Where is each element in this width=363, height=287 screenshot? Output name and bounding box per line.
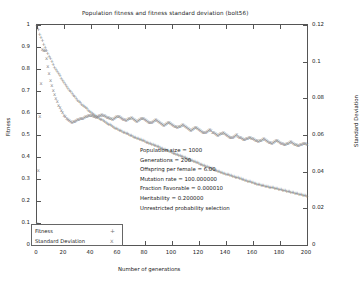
y-tick-left bbox=[37, 113, 41, 114]
svg-text:x: x bbox=[46, 63, 49, 69]
x-tick-top bbox=[37, 25, 38, 29]
y-tick-label-left: 0.1 bbox=[4, 219, 30, 225]
y-tick-right bbox=[303, 135, 307, 136]
x-tick bbox=[307, 241, 308, 245]
y-tick-label-right: 0.04 bbox=[312, 168, 338, 174]
x-tick bbox=[280, 241, 281, 245]
y-tick-label-left: 0.5 bbox=[4, 131, 30, 137]
x-tick bbox=[226, 241, 227, 245]
annotation-line-1: Population size = 1000 bbox=[140, 146, 230, 156]
x-axis-label: Number of generations bbox=[118, 266, 180, 272]
y-tick-label-left: 0.9 bbox=[4, 43, 30, 49]
x-tick-label: 180 bbox=[266, 249, 292, 255]
annotation-line-5: Fraction Favorable = 0.000010 bbox=[140, 184, 230, 194]
x-tick-label: 60 bbox=[104, 249, 130, 255]
x-tick bbox=[199, 241, 200, 245]
y-tick-right bbox=[303, 62, 307, 63]
x-tick-label: 20 bbox=[50, 249, 76, 255]
svg-text:x: x bbox=[305, 141, 308, 147]
x-tick bbox=[145, 241, 146, 245]
legend-item-2: Standard Deviation bbox=[35, 238, 85, 244]
x-tick-label: 100 bbox=[158, 249, 184, 255]
svg-text:x: x bbox=[45, 55, 48, 61]
annotation-line-3: Offspring per female = 6.00 bbox=[140, 165, 230, 175]
x-tick-top bbox=[64, 25, 65, 29]
x-tick-top bbox=[118, 25, 119, 29]
y-tick-right bbox=[303, 208, 307, 209]
y-tick-label-right: 0 bbox=[312, 241, 338, 247]
y-tick-label-right: 0.12 bbox=[312, 21, 338, 27]
y-tick-label-left: 0.6 bbox=[4, 109, 30, 115]
y-tick-label-left: 0.3 bbox=[4, 175, 30, 181]
parameter-annotations: Population size = 1000Generations = 200O… bbox=[140, 146, 230, 213]
y-tick-right bbox=[303, 172, 307, 173]
x-tick-label: 200 bbox=[293, 249, 319, 255]
x-tick-top bbox=[91, 25, 92, 29]
svg-text:x: x bbox=[37, 167, 40, 173]
y-tick-label-left: 0.2 bbox=[4, 197, 30, 203]
chart-legend: Fitness+Standard Deviationx bbox=[31, 224, 123, 246]
y-tick-label-left: 1 bbox=[4, 21, 30, 27]
y-tick-left bbox=[37, 157, 41, 158]
y-tick-label-left: 0.4 bbox=[4, 153, 30, 159]
y-tick-label-right: 0.1 bbox=[312, 58, 338, 64]
x-tick-label: 140 bbox=[212, 249, 238, 255]
svg-text:x: x bbox=[38, 113, 41, 119]
svg-text:x: x bbox=[40, 80, 43, 86]
x-tick-label: 160 bbox=[239, 249, 265, 255]
legend-marker-1: + bbox=[110, 228, 115, 234]
x-tick bbox=[253, 241, 254, 245]
y-tick-label-right: 0.02 bbox=[312, 204, 338, 210]
annotation-line-6: Heritability = 0.200000 bbox=[140, 194, 230, 204]
y-tick-right bbox=[303, 245, 307, 246]
y-tick-left bbox=[37, 179, 41, 180]
x-tick-top bbox=[226, 25, 227, 29]
y-tick-right bbox=[303, 98, 307, 99]
x-tick-label: 40 bbox=[77, 249, 103, 255]
y-tick-label-right: 0.06 bbox=[312, 131, 338, 137]
x-tick-label: 0 bbox=[23, 249, 49, 255]
y-tick-left bbox=[37, 47, 41, 48]
y-tick-label-left: 0.7 bbox=[4, 87, 30, 93]
x-tick-label: 120 bbox=[185, 249, 211, 255]
chart-title: Population fitness and fitness standard … bbox=[82, 10, 248, 16]
legend-item-1: Fitness bbox=[35, 228, 53, 234]
y-tick-label-right: 0.08 bbox=[312, 94, 338, 100]
y-tick-left bbox=[37, 201, 41, 202]
x-tick-top bbox=[280, 25, 281, 29]
annotation-line-7: Unrestricted probability selection bbox=[140, 204, 230, 214]
x-tick bbox=[172, 241, 173, 245]
svg-text:x: x bbox=[44, 47, 47, 53]
x-tick-top bbox=[145, 25, 146, 29]
y-tick-label-left: 0.8 bbox=[4, 65, 30, 71]
y-axis-label-right: Standard Deviation bbox=[353, 93, 359, 149]
y-tick-left bbox=[37, 91, 41, 92]
y-tick-left bbox=[37, 135, 41, 136]
svg-text:+: + bbox=[305, 193, 309, 199]
y-tick-left bbox=[37, 69, 41, 70]
x-tick-top bbox=[172, 25, 173, 29]
svg-text:x: x bbox=[48, 70, 51, 76]
x-tick-top bbox=[253, 25, 254, 29]
y-tick-label-left: 0 bbox=[4, 241, 30, 247]
annotation-line-4: Mutation rate = 100.000000 bbox=[140, 175, 230, 185]
x-tick-top bbox=[199, 25, 200, 29]
x-tick-top bbox=[307, 25, 308, 29]
chart-canvas: Population fitness and fitness standard … bbox=[0, 0, 363, 287]
x-tick-label: 80 bbox=[131, 249, 157, 255]
annotation-line-2: Generations = 200 bbox=[140, 156, 230, 166]
legend-marker-2: x bbox=[110, 238, 114, 244]
